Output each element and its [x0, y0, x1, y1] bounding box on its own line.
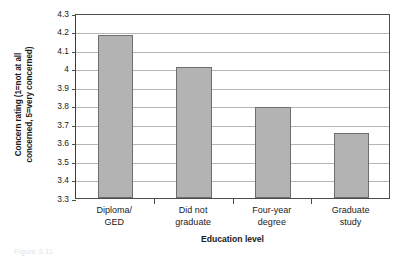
y-axis-tick-mark — [72, 126, 76, 127]
x-axis-category-label-line-1: graduate — [154, 217, 233, 229]
y-axis-tick-label: 3.7 — [33, 121, 69, 129]
x-axis-category-label-line-1: study — [311, 217, 390, 229]
x-axis-category-label: Diploma/GED — [75, 205, 154, 228]
x-axis-category-label-line-1: degree — [233, 217, 312, 229]
y-axis-tick-mark — [72, 89, 76, 90]
x-axis-tick-mark — [154, 199, 155, 204]
y-axis-title: Concern rating (1=not at all concerned, … — [14, 10, 35, 200]
x-axis-category-label-line-0: Four-year — [233, 205, 312, 217]
y-axis-tick-label: 3.3 — [33, 195, 69, 203]
y-axis-tick-label: 4.1 — [33, 47, 69, 55]
y-axis-tick-mark — [72, 52, 76, 53]
x-axis-category-label-line-0: Did not — [154, 205, 233, 217]
y-axis-tick-mark — [72, 15, 76, 16]
y-axis-tick-label: 3.5 — [33, 158, 69, 166]
figure-bar-chart: Concern rating (1=not at all concerned, … — [0, 0, 409, 257]
y-axis-tick-label: 4 — [33, 65, 69, 73]
y-axis-tick-label: 4.2 — [33, 28, 69, 36]
x-axis-tick-mark — [311, 199, 312, 204]
caption-artifact: Figure 3.11 — [14, 248, 53, 255]
x-axis-category-label-line-0: Graduate — [311, 205, 390, 217]
y-axis-tick-mark — [72, 200, 76, 201]
bar-2 — [255, 107, 290, 198]
x-axis-title: Education level — [75, 234, 390, 244]
x-axis-category-label: Four-yeardegree — [233, 205, 312, 228]
y-axis-tick-mark — [72, 181, 76, 182]
y-axis-tick-label: 4.3 — [33, 10, 69, 18]
x-axis-category-label: Graduatestudy — [311, 205, 390, 228]
x-axis-category-label-line-1: GED — [75, 217, 154, 229]
bar-0 — [98, 35, 133, 198]
y-axis-tick-mark — [72, 107, 76, 108]
x-axis-category-label-line-0: Diploma/ — [75, 205, 154, 217]
y-axis-title-line-1: Concern rating (1=not at all — [14, 10, 25, 200]
x-axis-tick-mark — [233, 199, 234, 204]
y-axis-tick-label: 3.4 — [33, 176, 69, 184]
y-axis-tick-label: 3.9 — [33, 84, 69, 92]
gridline — [76, 33, 389, 34]
y-axis-tick-mark — [72, 144, 76, 145]
y-axis-tick-label: 3.8 — [33, 102, 69, 110]
y-axis-tick-mark — [72, 163, 76, 164]
y-axis-tick-label: 3.6 — [33, 139, 69, 147]
y-axis-tick-mark — [72, 70, 76, 71]
x-axis-category-label: Did notgraduate — [154, 205, 233, 228]
y-axis-tick-mark — [72, 33, 76, 34]
bar-1 — [176, 67, 211, 198]
plot-area — [75, 14, 390, 199]
bar-3 — [334, 133, 369, 198]
